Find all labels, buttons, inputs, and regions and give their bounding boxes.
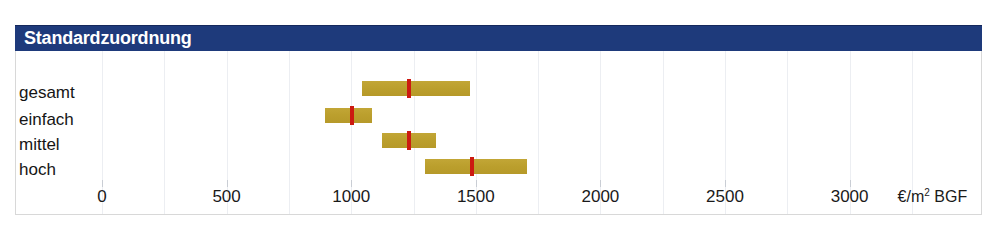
range-bar-einfach: [325, 108, 372, 123]
range-bar-hoch: [425, 159, 527, 174]
median-marker-einfach: [350, 106, 354, 125]
axis-tick: [600, 180, 601, 187]
axis-tick-label-1000: 1000: [332, 187, 370, 207]
axis-tick: [725, 180, 726, 187]
page-title: Standardzuordnung: [24, 28, 192, 49]
axis-tick-label-3000: 3000: [831, 187, 869, 207]
median-marker-gesamt: [407, 79, 411, 98]
axis-unit-label: €/m2 BGF: [898, 187, 968, 206]
axis-tick-label-0: 0: [97, 187, 106, 207]
axis-tick: [227, 180, 228, 187]
axis-tick-label-1500: 1500: [457, 187, 495, 207]
x-axis: €/m2 BGF 050010001500200025003000: [16, 180, 981, 214]
range-bar-gesamt: [362, 81, 469, 96]
axis-tick-label-2000: 2000: [581, 187, 619, 207]
median-marker-hoch: [470, 157, 474, 176]
axis-tick: [351, 180, 352, 187]
chart-title-bar: Standardzuordnung: [15, 25, 982, 51]
axis-tick-label-2500: 2500: [706, 187, 744, 207]
median-marker-mittel: [407, 131, 411, 150]
chart-card: Standardzuordnung gesamteinfachmittelhoc…: [0, 0, 991, 225]
axis-tick: [850, 180, 851, 187]
axis-tick: [102, 180, 103, 187]
axis-tick: [476, 180, 477, 187]
plot-frame: gesamteinfachmittelhoch €/m2 BGF 0500100…: [15, 51, 982, 215]
axis-tick-label-500: 500: [212, 187, 240, 207]
